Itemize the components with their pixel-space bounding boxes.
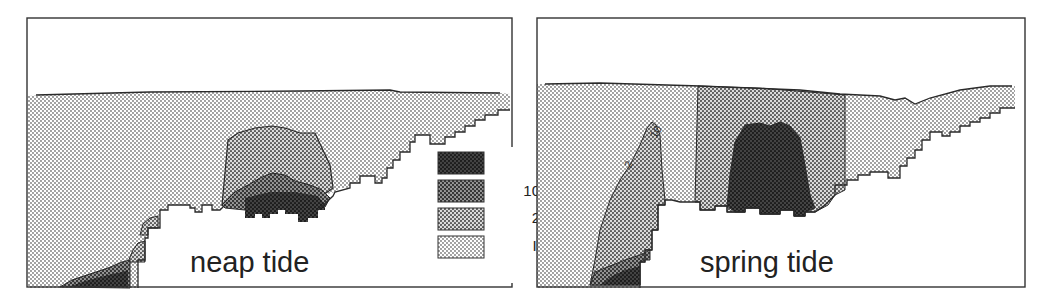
- panel-spring-tide: 10 2 spring tide: [537, 18, 1025, 288]
- legend-swatch-inf-2: [438, 236, 484, 258]
- legend-swatch-10-60: [438, 180, 484, 202]
- figure: neap tide 60 10 - 60 2 - 10 Inf 2 10 2: [0, 0, 1064, 307]
- region-60-core: [245, 192, 325, 222]
- legend-swatch-60: [438, 152, 484, 174]
- legend-swatch-2-10: [438, 208, 484, 230]
- panel-label-spring: spring tide: [700, 246, 834, 278]
- panel-label-neap: neap tide: [190, 246, 309, 278]
